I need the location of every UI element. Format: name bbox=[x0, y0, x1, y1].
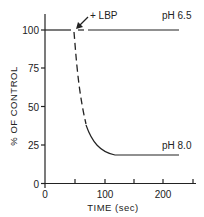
x-tick-0: 0 bbox=[42, 189, 48, 200]
chart: 100 75 50 25 0 0 100 200 TIME (sec) % OF… bbox=[0, 0, 204, 217]
y-tick-100: 100 bbox=[22, 25, 39, 36]
y-axis-label: % OF CONTROL bbox=[8, 66, 19, 145]
y-tick-labels: 100 75 50 25 0 bbox=[22, 25, 39, 190]
lbp-annotation: + LBP bbox=[90, 10, 118, 21]
series-ph80-dashed bbox=[74, 32, 86, 124]
series-label-ph80: pH 8.0 bbox=[162, 140, 192, 151]
series-label-ph65: pH 6.5 bbox=[162, 10, 192, 21]
x-tick-labels: 0 100 200 bbox=[42, 189, 172, 200]
x-axis-label: TIME (sec) bbox=[87, 202, 138, 213]
y-tick-75: 75 bbox=[28, 63, 40, 74]
y-tick-50: 50 bbox=[28, 102, 40, 113]
y-tick-0: 0 bbox=[33, 179, 39, 190]
x-tick-200: 200 bbox=[155, 189, 172, 200]
x-tick-100: 100 bbox=[97, 189, 114, 200]
y-tick-25: 25 bbox=[28, 140, 40, 151]
